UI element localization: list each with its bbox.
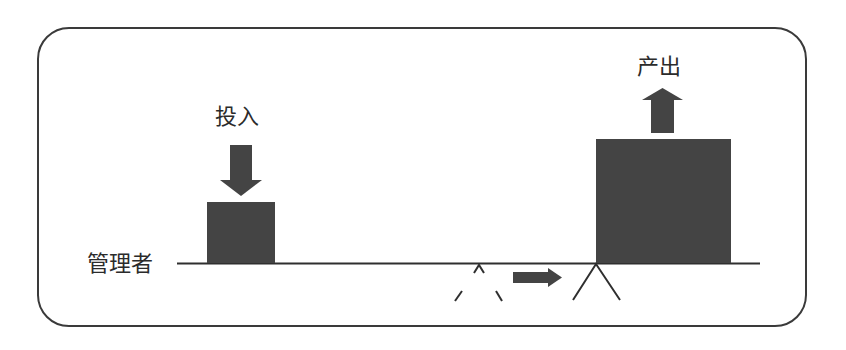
lever-diagram (0, 0, 846, 350)
right-arrow-icon (513, 268, 562, 287)
output-block (596, 139, 731, 263)
up-arrow-icon (642, 88, 683, 133)
input-block (207, 202, 275, 263)
dashed-fulcrum-icon (455, 265, 502, 301)
solid-fulcrum-icon (573, 264, 620, 300)
down-arrow-icon (220, 145, 262, 196)
